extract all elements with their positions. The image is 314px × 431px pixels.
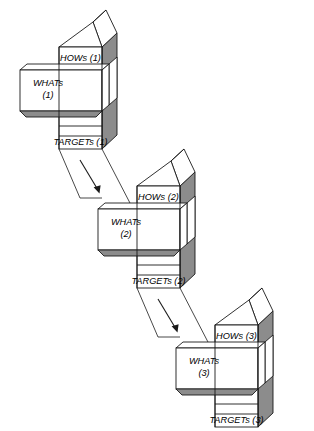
house-1-targets-label: TARGETs (1) (53, 137, 107, 147)
deploy-2-arrow-head (172, 324, 179, 332)
deploy-1-to-2 (59, 149, 131, 205)
house-2-whats-label-line2: (2) (120, 229, 131, 239)
deploy-1-right-line (102, 149, 131, 205)
house-2-targets-label: TARGETs (2) (131, 276, 185, 286)
house-1-whats-label-line1: WHATs (33, 78, 64, 88)
house-1-whats-right-end (102, 64, 109, 111)
qfd-houses-diagram: HOWs (1) WHATs (1) TARGETs (1) HOWs (2) … (0, 0, 314, 431)
house-1-whats-bottom-shadow (20, 111, 102, 117)
house-1[interactable]: HOWs (1) WHATs (1) TARGETs (1) (20, 10, 117, 149)
house-3-whats-top-face (176, 342, 265, 348)
house-2-hows-label: HOWs (2) (138, 192, 179, 202)
house-3-whats-right-end (258, 342, 265, 389)
house-2-whats-top-face (98, 203, 187, 209)
house-2-whats-label-line1: WHATs (111, 217, 142, 227)
deploy-2-arrow-shaft (158, 299, 176, 329)
deploy-2-right-line (180, 288, 209, 344)
deploy-2-left-line (137, 288, 180, 337)
house-1-whats-label-line2: (1) (42, 90, 53, 100)
house-1-hows-label: HOWs (1) (60, 53, 101, 63)
deploy-1-arrow-shaft (80, 160, 98, 190)
house-3-whats-front (176, 348, 258, 389)
house-1-whats-top-face (20, 64, 109, 70)
deploy-1-left-line (59, 149, 102, 198)
house-3-targets-label: TARGETs (3) (209, 415, 263, 425)
deploy-2-to-3 (137, 288, 209, 344)
house-1-whats-right-face (109, 57, 117, 105)
house-3-whats-right-face (265, 335, 273, 383)
house-2-whats-right-end (180, 203, 187, 250)
deploy-1-arrow-head (94, 185, 101, 193)
house-3-whats-label-line1: WHATs (189, 356, 220, 366)
house-2-whats-front (98, 209, 180, 250)
house-2-whats-bottom-shadow (98, 250, 180, 256)
house-3-hows-label: HOWs (3) (216, 331, 257, 341)
house-3-whats-label-line2: (3) (198, 368, 209, 378)
house-1-whats-front (20, 70, 102, 111)
house-3-whats-bottom-shadow (176, 389, 258, 395)
house-2-whats-right-face (187, 196, 195, 244)
diagram-canvas: HOWs (1) WHATs (1) TARGETs (1) HOWs (2) … (0, 0, 314, 431)
